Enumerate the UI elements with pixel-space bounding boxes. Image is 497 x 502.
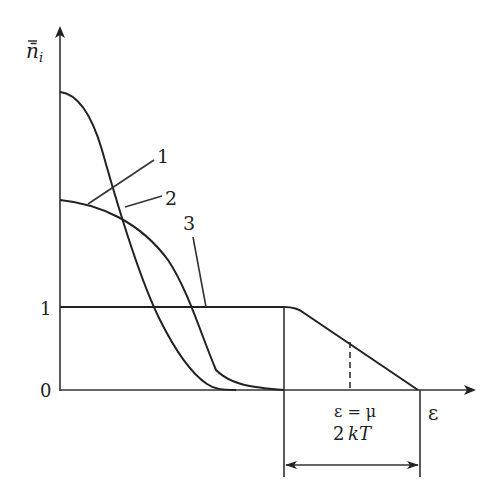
y-tick-1: 1 (40, 298, 51, 319)
curve-label-1: 1 (157, 145, 169, 167)
leader-line-1 (88, 160, 154, 204)
mu-label: ε = μ (334, 402, 376, 421)
y-axis-label-text: n̄ (26, 39, 39, 63)
curve-2 (60, 200, 284, 390)
y-tick-0: 0 (40, 380, 51, 401)
curve-label-2: 2 (165, 187, 177, 209)
leader-line-2 (125, 196, 162, 207)
width-label: 2 kT (333, 423, 373, 444)
x-axis-label: ε (428, 401, 438, 425)
curve-label-3: 3 (183, 212, 195, 234)
y-axis-label-subscript: i (39, 50, 43, 65)
width-label-var: kT (348, 423, 373, 444)
width-label-number: 2 (333, 423, 344, 444)
y-axis-label: n̄ i (26, 39, 43, 65)
curve-3 (60, 307, 418, 390)
distribution-diagram: n̄ i ε 1 0 ε = μ 2 kT 1 2 3 (0, 0, 497, 502)
curve-1 (60, 92, 236, 390)
leader-line-3 (193, 237, 206, 307)
